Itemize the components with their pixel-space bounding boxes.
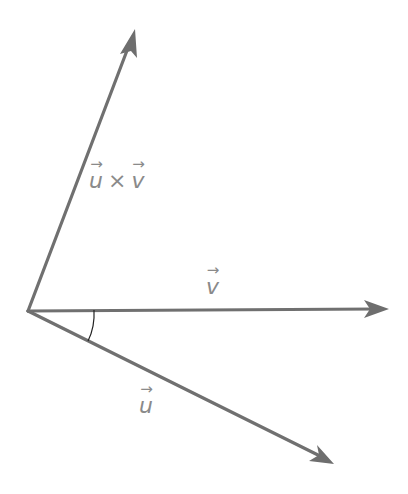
vector-symbol-u: →u [139,395,153,417]
label-u: →u [139,395,153,417]
vector-u [28,311,334,464]
angle-arc [88,310,94,341]
vector-v [28,300,389,318]
vector-symbol-u: →u [89,170,103,192]
arrowhead-icon [120,29,137,58]
vector-symbol-v: →v [206,276,219,298]
label-v: →v [206,276,219,298]
vector-symbol-v: →v [131,170,144,192]
label-u-cross-v: →u×→v [89,170,144,192]
cross-product-diagram [0,0,408,494]
arrowhead-icon [309,445,334,464]
cross-operator: × [108,168,126,193]
